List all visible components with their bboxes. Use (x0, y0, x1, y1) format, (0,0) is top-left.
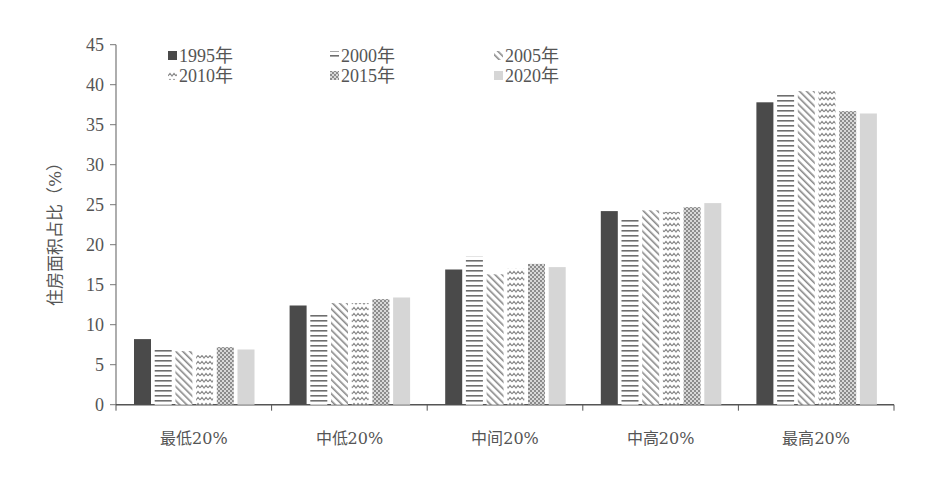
bar (310, 314, 327, 405)
x-category-label: 中间20% (471, 429, 539, 448)
y-tick-label: 5 (95, 355, 104, 375)
y-tick-label: 45 (86, 35, 104, 55)
y-axis: 051015202530354045 (86, 35, 116, 415)
x-category-label: 中高20% (627, 429, 695, 448)
bar (290, 306, 307, 405)
legend-swatch-icon (494, 71, 503, 80)
legend-label: 2015年 (341, 66, 395, 86)
x-category-label: 最低20% (160, 429, 228, 448)
bar (860, 114, 877, 405)
x-axis: 最低20%中低20%中间20%中高20%最高20% (116, 405, 894, 448)
bar (704, 203, 721, 405)
bar (238, 350, 255, 405)
y-tick-label: 25 (86, 195, 104, 215)
y-axis-label: 住房面积占比（%） (45, 154, 65, 306)
bar (445, 270, 462, 405)
y-tick-label: 40 (86, 75, 104, 95)
legend-swatch-icon (330, 71, 339, 80)
y-axis-title: 住房面积占比（%） (45, 154, 65, 306)
bar (487, 274, 504, 404)
y-tick-label: 30 (86, 155, 104, 175)
bar (601, 211, 618, 405)
bar (819, 91, 836, 405)
bar (756, 102, 773, 404)
legend-label: 2010年 (179, 66, 233, 86)
legend-item: 2010年 (168, 66, 233, 86)
bar (622, 218, 639, 405)
bar (528, 264, 545, 405)
y-tick-label: 0 (95, 395, 104, 415)
legend-swatch-icon (494, 51, 503, 60)
bar (663, 212, 680, 405)
y-tick-label: 35 (86, 115, 104, 135)
legend-swatch-icon (330, 51, 339, 60)
legend-item: 2015年 (330, 66, 395, 86)
bar (217, 347, 234, 405)
legend-label: 2005年 (505, 46, 559, 66)
bar (777, 94, 794, 404)
bar (155, 348, 172, 405)
bar (372, 299, 389, 405)
legend: 1995年2000年2005年2010年2015年2020年 (168, 46, 559, 86)
legend-item: 2000年 (330, 46, 395, 66)
legend-item: 2005年 (494, 46, 559, 66)
bar-chart: 住房面积占比（%） 051015202530354045 最低20%中低20%中… (0, 0, 939, 482)
legend-label: 2000年 (341, 46, 395, 66)
bar (175, 351, 192, 405)
bar (642, 210, 659, 404)
legend-swatch-icon (168, 51, 177, 60)
bar (684, 207, 701, 405)
bar (549, 267, 566, 405)
y-tick-label: 20 (86, 235, 104, 255)
legend-label: 1995年 (179, 46, 233, 66)
bar (507, 269, 524, 405)
y-tick-label: 15 (86, 275, 104, 295)
bar (134, 339, 151, 405)
legend-swatch-icon (168, 71, 177, 80)
bar (393, 298, 410, 405)
bar (196, 355, 213, 405)
bar (798, 91, 815, 405)
legend-item: 2020年 (494, 66, 559, 86)
x-category-label: 最高20% (782, 429, 850, 448)
bar-series (134, 91, 877, 405)
bar (466, 257, 483, 405)
legend-item: 1995年 (168, 46, 233, 66)
x-category-label: 中低20% (316, 429, 384, 448)
legend-label: 2020年 (505, 66, 559, 86)
bar (331, 303, 348, 405)
y-tick-label: 10 (86, 315, 104, 335)
bar (839, 111, 856, 405)
bar (352, 303, 369, 405)
